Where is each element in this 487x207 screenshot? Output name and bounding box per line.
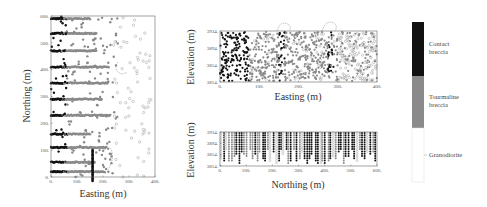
data-point [97,18,99,20]
data-point [252,146,254,148]
data-point [264,148,266,150]
data-point [262,157,264,159]
data-point [324,139,326,141]
data-point [273,137,275,139]
data-point [372,42,374,44]
data-point [287,141,289,143]
data-point [275,75,277,77]
data-point [282,73,284,75]
data-point [128,115,130,117]
data-point [327,68,329,70]
data-point [309,146,311,148]
data-point [345,78,347,80]
data-point [329,150,331,152]
y-tick-label: 200. [40,121,49,126]
data-point [311,148,313,150]
data-point [338,33,340,35]
data-point [269,144,271,146]
data-point [372,132,374,134]
data-point [312,71,314,73]
data-point [247,48,249,50]
data-point [353,148,355,150]
data-point [238,141,240,143]
data-point [111,127,113,129]
northing-section-y-axis-label: Elevation (m) [185,122,197,177]
data-point [112,44,114,46]
data-point [374,160,376,162]
data-point [136,81,138,83]
data-point [64,81,66,83]
data-point [348,144,350,146]
data-point [282,141,284,143]
y-tick-label: 3814. [207,80,218,85]
data-point [98,132,100,134]
data-point [274,66,276,68]
data-point [324,137,326,139]
data-point [317,162,319,164]
data-point [365,31,367,33]
data-point [119,102,121,104]
data-point [351,148,353,150]
data-point [249,73,251,75]
data-point [306,153,308,155]
data-point [278,150,280,152]
data-point [276,137,278,139]
data-point [84,158,86,160]
data-point [295,144,297,146]
data-point [230,61,232,63]
data-point [222,37,224,39]
data-point [249,58,251,60]
data-point [278,146,280,148]
data-point [260,72,262,74]
data-point [356,137,358,139]
data-point [345,141,347,143]
data-point [359,132,361,134]
data-point [317,144,319,146]
data-point [362,79,364,81]
data-point [231,64,233,66]
data-point [295,150,297,152]
data-point [149,55,151,57]
data-point [321,157,323,159]
data-point [353,155,355,157]
data-point [115,158,117,160]
data-point [311,39,313,41]
data-point [338,134,340,136]
data-point [364,61,366,63]
data-point [364,47,366,49]
data-point [332,144,334,146]
data-point [324,64,326,66]
data-point [274,71,276,73]
data-point [228,137,230,139]
data-point [304,150,306,152]
data-point [293,148,295,150]
data-point [233,141,235,143]
data-point [278,73,280,75]
data-point [252,150,254,152]
data-point [257,139,259,141]
data-point [243,132,245,134]
data-point [348,43,350,45]
data-point [347,74,349,76]
data-point [321,153,323,155]
data-point [235,148,237,150]
data-point [369,139,371,141]
legend-label-contact-line1: Contact [429,40,449,47]
data-point [108,66,110,68]
data-point [306,66,308,68]
data-point [148,148,150,150]
data-point [258,132,260,134]
data-point [374,137,376,139]
data-point [241,141,243,143]
data-point [317,139,319,141]
data-point [238,132,240,134]
data-point [321,150,323,152]
data-point [343,139,345,141]
data-point [232,32,234,34]
data-point [343,153,345,155]
data-point [287,62,289,64]
data-point [222,74,224,76]
data-point [283,39,285,41]
plan-y-axis-label: Northing (m) [21,69,33,122]
data-point [268,41,270,43]
